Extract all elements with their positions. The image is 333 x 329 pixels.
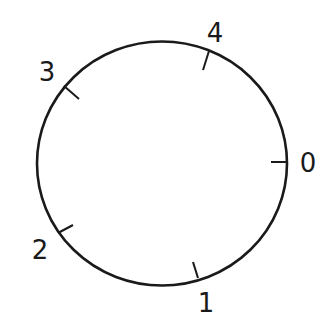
tick-label-0: 0 — [300, 148, 317, 178]
ticks — [58, 51, 287, 278]
circle-diagram: 0 1 2 3 4 — [0, 0, 333, 329]
tick-label-1: 1 — [198, 288, 215, 318]
tick-3 — [64, 86, 79, 99]
tick-label-4: 4 — [207, 18, 224, 48]
tick-label-2: 2 — [32, 235, 49, 265]
circle-outline — [37, 42, 287, 286]
tick-2 — [58, 225, 73, 233]
tick-1 — [193, 262, 198, 278]
tick-label-3: 3 — [39, 57, 56, 87]
tick-4 — [203, 51, 209, 70]
tick-labels: 0 1 2 3 4 — [32, 18, 317, 318]
